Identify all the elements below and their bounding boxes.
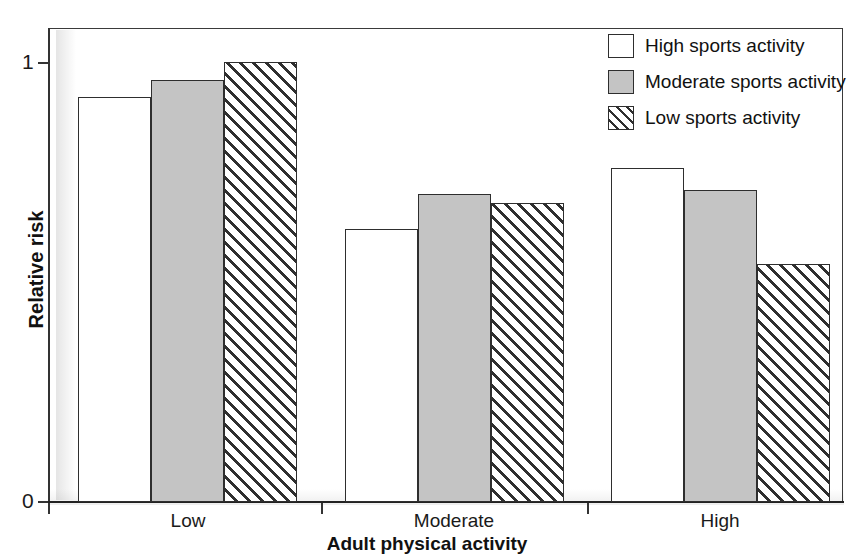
x-tick-label-high: High xyxy=(700,510,739,532)
legend-label-low: Low sports activity xyxy=(645,107,800,129)
legend-label-moderate: Moderate sports activity xyxy=(645,71,846,93)
x-tick-label-low: Low xyxy=(171,510,206,532)
bar-high-low xyxy=(757,264,830,502)
y-axis-line xyxy=(48,28,50,504)
bar-chart-figure: 1 0 Low Moderate High Relative risk Adul… xyxy=(0,0,854,560)
legend-item-low-sports-activity: Low sports activity xyxy=(608,105,846,131)
legend-label-high: High sports activity xyxy=(645,35,804,57)
bar-moderate-high xyxy=(345,229,418,502)
gray-square-icon xyxy=(608,70,634,94)
bar-high-moderate xyxy=(684,190,757,502)
bar-low-high xyxy=(78,97,151,502)
x-tick-mark-2 xyxy=(587,503,589,514)
x-axis-title: Adult physical activity xyxy=(0,533,854,555)
x-tick-mark-start xyxy=(48,503,50,514)
hatched-square-icon xyxy=(608,106,634,130)
y-axis-title: Relative risk xyxy=(25,190,48,350)
x-tick-label-moderate: Moderate xyxy=(414,510,494,532)
y-tick-mark-0 xyxy=(38,501,48,503)
bar-moderate-low xyxy=(491,203,564,502)
white-square-icon xyxy=(608,34,634,58)
y-tick-mark-1 xyxy=(38,62,48,64)
bar-high-high xyxy=(611,168,684,502)
bar-low-moderate xyxy=(151,80,224,502)
bar-low-low xyxy=(224,62,297,502)
legend-item-moderate-sports-activity: Moderate sports activity xyxy=(608,69,846,95)
bar-moderate-moderate xyxy=(418,194,491,502)
chart-legend: High sports activity Moderate sports act… xyxy=(608,33,846,131)
x-tick-mark-1 xyxy=(321,503,323,514)
legend-item-high-sports-activity: High sports activity xyxy=(608,33,846,59)
